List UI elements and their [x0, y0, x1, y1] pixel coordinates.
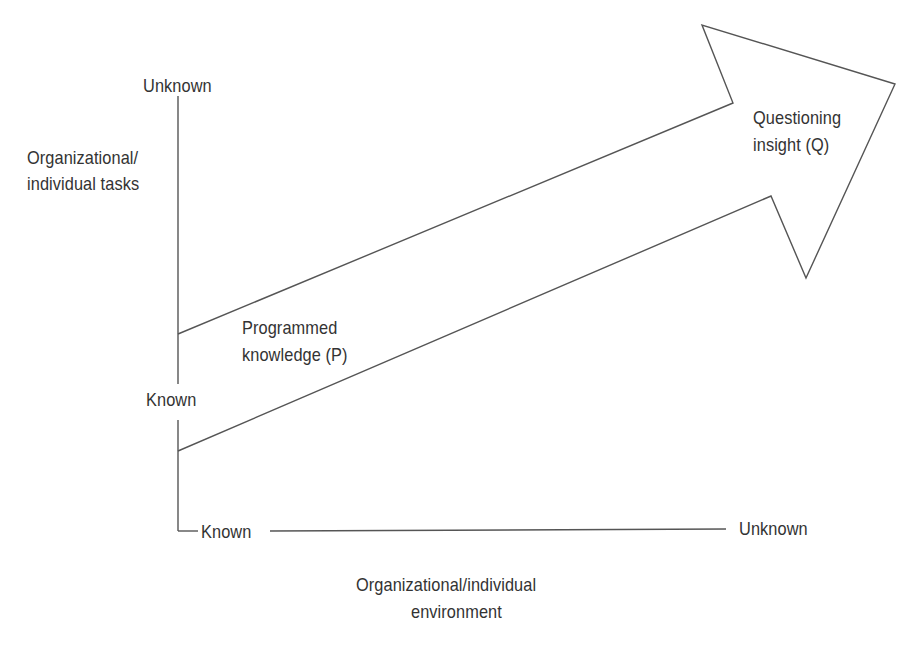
- programmed-knowledge-label-line1: Programmed: [242, 316, 337, 340]
- y-axis-top-label: Unknown: [143, 74, 212, 98]
- x-axis-right-label: Unknown: [739, 517, 808, 541]
- x-axis-title-line1: Organizational/individual: [356, 573, 536, 597]
- programmed-knowledge-label-line2: knowledge (P): [242, 343, 348, 367]
- diagram-canvas: [0, 0, 916, 651]
- knowledge-arrow-shape: [178, 25, 895, 451]
- x-axis-line: [270, 529, 726, 531]
- x-axis-title-line2: environment: [411, 600, 502, 624]
- questioning-insight-label-line1: Questioning: [753, 106, 841, 130]
- y-axis-title-line2: individual tasks: [27, 172, 139, 196]
- y-axis-title-line1: Organizational/: [27, 146, 138, 170]
- x-axis-left-label: Known: [201, 520, 251, 544]
- y-axis-bottom-label: Known: [146, 388, 196, 412]
- questioning-insight-label-line2: insight (Q): [753, 133, 829, 157]
